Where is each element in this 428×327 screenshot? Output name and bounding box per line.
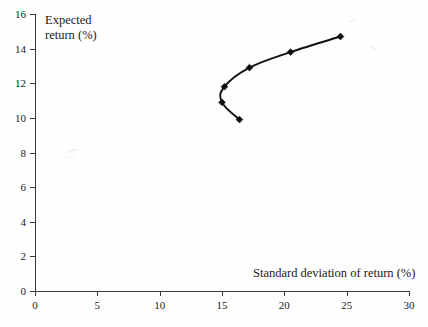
data-point-marker <box>246 64 253 71</box>
data-point-marker <box>287 49 294 56</box>
chart-page: Expected return (%) Standard deviation o… <box>0 0 428 327</box>
plot-area: Expected return (%) Standard deviation o… <box>0 0 428 327</box>
series-markers <box>219 33 344 123</box>
data-series <box>0 0 428 327</box>
data-point-marker <box>337 33 344 40</box>
series-line <box>220 37 340 120</box>
